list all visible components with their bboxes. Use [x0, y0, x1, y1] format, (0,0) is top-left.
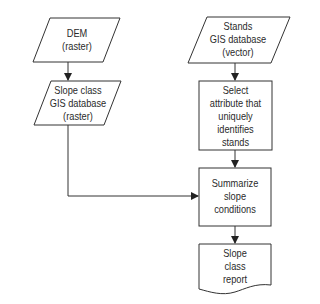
dem-line-2: (raster): [44, 40, 109, 53]
slope-line-3: (raster): [45, 110, 112, 123]
summarize-label: Summarize slope conditions: [203, 177, 266, 216]
select-line-5: stands: [203, 136, 267, 149]
slope-class-db-label: Slope class GIS database (raster): [45, 84, 112, 123]
summarize-line-1: Summarize: [203, 177, 266, 190]
report-line-3: report: [203, 273, 266, 286]
select-line-3: uniquely: [203, 110, 267, 123]
slope-line-2: GIS database: [45, 97, 112, 110]
select-attribute-label: Select attribute that uniquely identifie…: [203, 84, 267, 149]
stands-line-2: GIS database: [201, 33, 275, 46]
slope-line-1: Slope class: [45, 84, 112, 97]
dem-line-1: DEM: [44, 27, 109, 40]
stands-db-label: Stands GIS database (vector): [201, 20, 275, 59]
edge-slope-to-summarize: [68, 125, 198, 196]
select-line-1: Select: [203, 84, 267, 97]
report-line-2: class: [203, 260, 266, 273]
summarize-line-2: slope: [203, 190, 266, 203]
stands-line-3: (vector): [201, 46, 275, 59]
summarize-line-3: conditions: [203, 203, 266, 216]
select-line-4: identifies: [203, 123, 267, 136]
dem-label: DEM (raster): [44, 27, 109, 53]
report-label: Slope class report: [203, 247, 266, 286]
stands-line-1: Stands: [201, 20, 275, 33]
report-line-1: Slope: [203, 247, 266, 260]
select-line-2: attribute that: [203, 97, 267, 110]
